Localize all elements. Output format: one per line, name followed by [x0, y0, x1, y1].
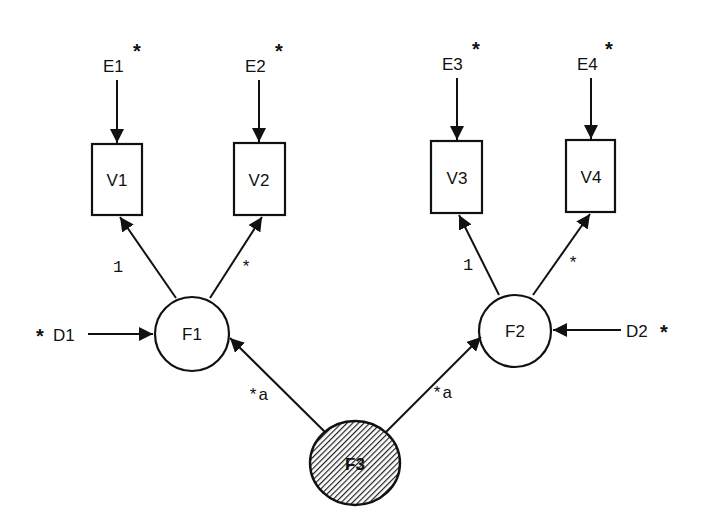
- factor-f3: F3: [310, 421, 400, 505]
- factor-label-f2: F2: [505, 322, 525, 341]
- observed-v3: V3: [431, 141, 482, 213]
- observed-label-v4: V4: [581, 168, 602, 187]
- observed-v4: V4: [566, 140, 615, 212]
- free-parameter-marker: *: [133, 40, 141, 62]
- factor-f1: F1: [155, 297, 229, 371]
- structural-label-f3-f1: *a: [248, 386, 268, 405]
- path-diagram: E1 * E2 * E3 * E4 * V1 V2 V3 V4 1 * 1 *: [0, 0, 704, 531]
- loading-label-f2-v3: 1: [463, 256, 473, 275]
- error-e4: E4 *: [577, 38, 613, 139]
- error-label-e4: E4: [577, 55, 598, 74]
- observed-label-v1: V1: [107, 171, 128, 190]
- free-parameter-marker: *: [660, 321, 668, 343]
- error-label-e3: E3: [442, 55, 463, 74]
- loading-label-f1-v1: 1: [113, 258, 123, 277]
- error-e1: E1 *: [103, 40, 141, 143]
- loading-arrow-f1-v2: [210, 217, 262, 298]
- disturbance-d2: D2 *: [553, 321, 668, 343]
- disturbance-label-d2: D2: [626, 322, 648, 341]
- factor-label-f1: F1: [182, 325, 202, 344]
- structural-label-f3-f2: *a: [432, 384, 452, 403]
- error-label-e1: E1: [103, 57, 124, 76]
- observed-label-v3: V3: [447, 169, 468, 188]
- observed-v1: V1: [92, 144, 142, 215]
- free-parameter-marker: *: [36, 325, 44, 347]
- structural-arrow-f3-f1: [230, 338, 325, 432]
- disturbance-d1: * D1: [36, 325, 153, 347]
- loading-arrow-f2-v3: [459, 215, 499, 295]
- error-label-e2: E2: [245, 57, 266, 76]
- error-e2: E2 *: [245, 40, 283, 142]
- observed-v2: V2: [234, 143, 285, 215]
- loading-label-f2-v4: *: [568, 254, 578, 273]
- observed-label-v2: V2: [249, 171, 270, 190]
- free-parameter-marker: *: [275, 40, 283, 62]
- free-parameter-marker: *: [472, 38, 480, 60]
- error-e3: E3 *: [442, 38, 480, 140]
- loading-arrow-f2-v4: [533, 214, 590, 295]
- loading-arrow-f1-v1: [120, 217, 176, 298]
- free-parameter-marker: *: [605, 38, 613, 60]
- loading-label-f1-v2: *: [241, 258, 251, 277]
- factor-label-f3: F3: [345, 455, 365, 474]
- factor-f2: F2: [479, 295, 551, 367]
- disturbance-label-d1: D1: [53, 326, 75, 345]
